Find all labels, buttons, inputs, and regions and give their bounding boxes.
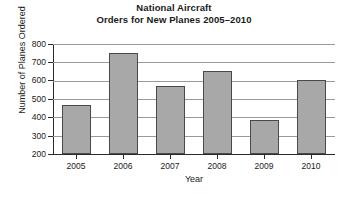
grid-line-400 bbox=[53, 117, 335, 118]
x-tick-label-2010: 2010 bbox=[291, 161, 331, 171]
chart-title-line-1: National Aircraft bbox=[0, 2, 348, 14]
y-tick-label-500: 500 bbox=[2, 95, 46, 104]
x-tick-label-2006: 2006 bbox=[103, 161, 143, 171]
x-tick-mark-3 bbox=[217, 155, 218, 159]
y-axis-tick-labels: 800 700 600 500 400 300 200 bbox=[0, 0, 46, 200]
x-tick-label-2007: 2007 bbox=[150, 161, 190, 171]
bar-2007[interactable] bbox=[156, 86, 184, 154]
chart-title-line-2: Orders for New Planes 2005–2010 bbox=[0, 14, 348, 26]
x-tick-mark-0 bbox=[76, 155, 77, 159]
x-axis-line bbox=[53, 154, 335, 155]
grid-line-300 bbox=[53, 136, 335, 137]
y-tick-label-700: 700 bbox=[2, 58, 46, 67]
chart-title: National Aircraft Orders for New Planes … bbox=[0, 2, 348, 25]
bar-2010[interactable] bbox=[297, 80, 325, 154]
plot-area bbox=[53, 44, 335, 154]
bar-2009[interactable] bbox=[250, 120, 278, 154]
bar-chart: National Aircraft Orders for New Planes … bbox=[0, 0, 348, 200]
y-tick-label-800: 800 bbox=[2, 40, 46, 49]
x-tick-label-2005: 2005 bbox=[56, 161, 96, 171]
x-tick-mark-1 bbox=[123, 155, 124, 159]
grid-line-700 bbox=[53, 62, 335, 63]
x-tick-mark-4 bbox=[264, 155, 265, 159]
bar-2006[interactable] bbox=[109, 53, 137, 154]
x-tick-mark-5 bbox=[311, 155, 312, 159]
x-tick-label-2009: 2009 bbox=[244, 161, 284, 171]
x-axis-title: Year bbox=[53, 174, 335, 184]
grid-line-500 bbox=[53, 99, 335, 100]
bar-2008[interactable] bbox=[203, 71, 231, 154]
y-tick-label-200: 200 bbox=[2, 150, 46, 159]
x-tick-mark-2 bbox=[170, 155, 171, 159]
x-tick-label-2008: 2008 bbox=[197, 161, 237, 171]
y-tick-label-300: 300 bbox=[2, 132, 46, 141]
y-tick-label-400: 400 bbox=[2, 113, 46, 122]
grid-line-600 bbox=[53, 81, 335, 82]
bar-2005[interactable] bbox=[62, 105, 90, 155]
y-tick-label-600: 600 bbox=[2, 76, 46, 85]
grid-line-800 bbox=[53, 44, 335, 45]
